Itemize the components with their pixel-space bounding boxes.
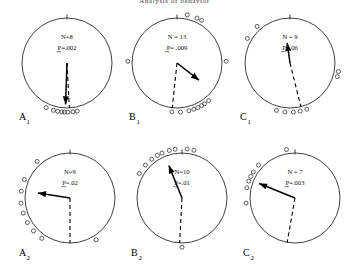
bearing-dot xyxy=(245,36,249,40)
bearing-dot xyxy=(21,211,25,215)
sample-size-label: N=10 xyxy=(174,168,190,175)
bearing-dot xyxy=(244,201,248,205)
bearing-dot xyxy=(247,179,251,183)
bearing-dot xyxy=(283,110,287,114)
bearing-dot xyxy=(167,148,171,152)
bearing-dot xyxy=(245,186,249,190)
panel-b2: N=10P=.01B2 xyxy=(131,147,227,262)
bearing-dot xyxy=(200,18,204,22)
bearing-dot xyxy=(335,75,339,79)
panel-label-subscript: 2 xyxy=(27,254,31,262)
bearing-dot xyxy=(251,170,255,174)
p-value-label: P=.002 xyxy=(58,44,77,51)
bearing-dot xyxy=(137,171,141,175)
bearing-dot xyxy=(180,245,184,249)
bearing-dot xyxy=(187,109,191,113)
panel-c1: N = 9P=.06C1 xyxy=(240,15,340,127)
bearing-dot xyxy=(170,110,174,114)
reference-dashed-line xyxy=(172,63,177,108)
panel-label: B xyxy=(129,111,136,122)
sample-size-label: N = 9 xyxy=(282,33,298,40)
bearing-dot xyxy=(336,70,340,74)
panel-label: B xyxy=(131,247,138,258)
bearing-dot xyxy=(255,24,259,28)
bearing-dot xyxy=(196,106,200,110)
panel-label-subscript: 2 xyxy=(139,254,143,262)
p-value-label: P=.02 xyxy=(62,179,78,186)
figure-root: Analysis of behavior N=8P=.002A1N = 13P=… xyxy=(0,0,349,271)
bearing-dot xyxy=(185,13,189,17)
panel-a2: N=9P=.02A2 xyxy=(19,150,115,263)
bearing-dot xyxy=(25,221,29,225)
bearing-dot xyxy=(224,59,228,63)
bearing-dot xyxy=(126,59,130,63)
panel-a1: N=8P=.002A1 xyxy=(19,15,112,127)
bearing-dot xyxy=(291,110,295,114)
bearing-dot xyxy=(40,236,44,240)
bearing-dot xyxy=(143,163,147,167)
p-value-label: P= .009 xyxy=(167,44,188,51)
sample-size-label: N = 13 xyxy=(168,33,187,40)
bearing-dot xyxy=(160,151,164,155)
bearing-dot xyxy=(185,147,189,151)
bearing-dot xyxy=(44,106,48,110)
panel-b1: N = 13P= .009B1 xyxy=(126,13,228,126)
bearing-dot xyxy=(298,109,302,113)
bearing-dot xyxy=(19,189,23,193)
bearing-dot xyxy=(71,110,75,114)
mean-vector-arrowhead xyxy=(259,184,268,190)
bearing-dot xyxy=(284,148,288,152)
reference-dashed-line xyxy=(287,198,295,242)
bearing-dot xyxy=(94,238,98,242)
bearing-dot xyxy=(51,108,55,112)
mean-vector-arrowhead xyxy=(38,191,46,197)
bearing-dot xyxy=(35,159,39,163)
bearing-dot xyxy=(56,109,60,113)
bearing-dot xyxy=(305,107,309,111)
bearing-dot xyxy=(155,153,159,157)
bearing-dot xyxy=(274,108,278,112)
panel-label: C xyxy=(240,111,247,122)
panel-label-subscript: 2 xyxy=(251,254,255,262)
sample-size-label: N=8 xyxy=(61,33,73,40)
mean-vector-arrowhead xyxy=(63,96,69,104)
bearing-dot xyxy=(195,16,199,20)
bearing-dot xyxy=(192,148,196,152)
p-value-label: P=.06 xyxy=(282,44,298,51)
bearing-dot xyxy=(19,201,23,205)
p-value-label: P=.003 xyxy=(286,179,306,186)
panel-c2: N = 7P=.003C2 xyxy=(243,148,340,262)
panel-label-subscript: 1 xyxy=(27,118,31,126)
reference-dashed-line xyxy=(290,63,301,107)
bearing-dot xyxy=(60,110,64,114)
circular-diagram-canvas: N=8P=.002A1N = 13P= .009B1N = 9P=.06C1N=… xyxy=(0,0,349,271)
bearing-dot xyxy=(22,178,26,182)
panel-label-subscript: 1 xyxy=(137,118,141,126)
bearing-dot xyxy=(256,163,260,167)
bearing-dot xyxy=(173,147,177,151)
bearing-dot xyxy=(192,107,196,111)
bearing-dot xyxy=(207,99,211,103)
panel-label-subscript: 1 xyxy=(248,118,252,126)
sample-size-label: N = 7 xyxy=(287,168,303,175)
bearing-dot xyxy=(178,110,182,114)
bearing-dot xyxy=(75,109,79,113)
bearing-dot xyxy=(249,174,253,178)
sample-size-label: N=9 xyxy=(64,168,76,175)
bearing-dot xyxy=(150,157,154,161)
panel-label: C xyxy=(243,247,250,258)
p-value-label: P=.01 xyxy=(174,179,190,186)
bearing-dot xyxy=(31,229,35,233)
reference-dashed-line xyxy=(180,198,182,243)
